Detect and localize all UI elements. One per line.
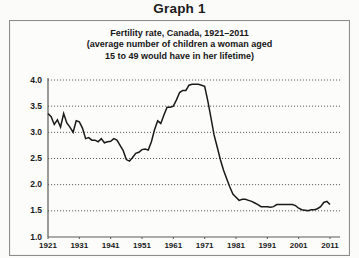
chart-title-line-3: 15 to 49 would have in her lifetime) [9, 51, 350, 62]
x-tick-label: 1981 [219, 241, 253, 250]
x-tick-label: 1921 [31, 241, 65, 250]
chart-title-line-1: Fertility rate, Canada, 1921–2011 [9, 28, 350, 39]
y-tick-label: 2.0 [12, 180, 42, 189]
x-tick-label: 1961 [156, 241, 190, 250]
y-tick-label: 1.5 [12, 206, 42, 215]
figure-label: Graph 1 [0, 1, 359, 16]
graph-figure: Graph 1 Fertility rate, Canada, 1921–201… [0, 0, 359, 258]
x-tick-label: 1931 [62, 241, 96, 250]
plot-area [46, 78, 342, 239]
gridlines [48, 80, 340, 211]
y-tick-label: 3.0 [12, 128, 42, 137]
x-tick-label: 1971 [188, 241, 222, 250]
x-tick-label: 1941 [94, 241, 128, 250]
y-tick-label: 4.0 [12, 76, 42, 85]
x-tick-label: 1991 [250, 241, 284, 250]
fertility-rate-series [48, 84, 330, 211]
chart-title: Fertility rate, Canada, 1921–2011 (avera… [9, 28, 350, 62]
y-tick-label: 2.5 [12, 154, 42, 163]
chart-title-line-2: (average number of children a woman aged [9, 39, 350, 50]
x-tick-label: 2011 [313, 241, 347, 250]
y-tick-label: 3.5 [12, 102, 42, 111]
fertility-rate-line-chart [46, 78, 342, 239]
x-tick-label: 1951 [125, 241, 159, 250]
axis-lines [48, 78, 340, 237]
x-tick-label: 2001 [282, 241, 316, 250]
